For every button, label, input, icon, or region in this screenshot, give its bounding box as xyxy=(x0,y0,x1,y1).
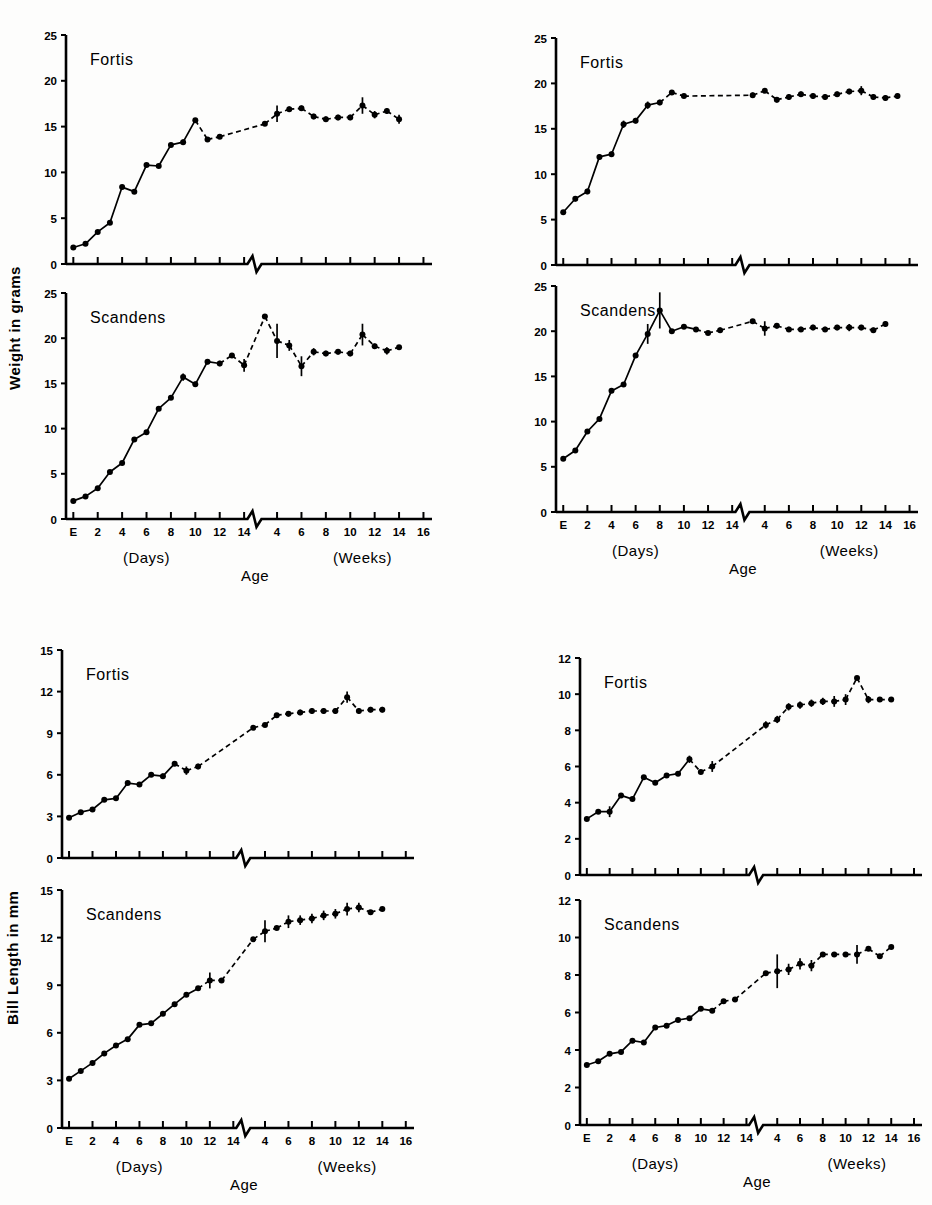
weeks-label: (Weeks) xyxy=(333,549,392,566)
axis-tick-label: 5 xyxy=(541,214,548,226)
data-point xyxy=(344,906,350,912)
axis-tick-label: 6 xyxy=(136,1135,142,1147)
data-point xyxy=(347,114,353,120)
axis-tick-label: 4 xyxy=(762,519,769,531)
data-point xyxy=(657,99,663,105)
data-point xyxy=(90,806,96,812)
data-point xyxy=(798,91,804,97)
axis-tick-label: 6 xyxy=(632,519,638,531)
axis-tick-label: 10 xyxy=(344,526,357,538)
axis-tick-label: 10 xyxy=(534,169,547,181)
days-label: (Days) xyxy=(612,542,659,559)
data-point xyxy=(822,94,828,100)
axis-tick-label: 15 xyxy=(40,885,53,897)
data-point xyxy=(843,951,849,957)
data-point xyxy=(596,154,602,160)
x-axis-line xyxy=(66,511,432,527)
axis-tick-label: 2 xyxy=(95,526,101,538)
data-point xyxy=(66,815,72,821)
data-point xyxy=(750,92,756,98)
axis-tick-label: 3 xyxy=(47,1075,53,1087)
axis-tick-label: 10 xyxy=(329,1135,342,1147)
species-label: Scandens xyxy=(86,906,162,923)
data-point xyxy=(396,344,402,350)
data-point xyxy=(311,349,317,355)
axis-tick-label: 15 xyxy=(44,121,57,133)
data-point xyxy=(652,780,658,786)
data-point xyxy=(323,351,329,357)
data-point xyxy=(321,708,327,714)
axis-tick-label: 12 xyxy=(855,519,868,531)
bill-length-plot: 03691215Fortis03691215E24681012144681012… xyxy=(0,600,466,1205)
axis-tick-label: 2 xyxy=(584,519,590,531)
axis-tick-label: 12 xyxy=(352,1135,365,1147)
data-point xyxy=(125,780,131,786)
data-point xyxy=(717,327,723,333)
data-point xyxy=(95,485,101,491)
axis-tick-label: 8 xyxy=(565,970,572,982)
data-point xyxy=(136,1022,142,1028)
axis-tick-label: 8 xyxy=(657,519,664,531)
data-point xyxy=(750,318,756,324)
data-point xyxy=(675,771,681,777)
data-point xyxy=(113,795,119,801)
data-point xyxy=(274,338,280,344)
axis-tick-label: 12 xyxy=(702,519,715,531)
data-point xyxy=(633,353,639,359)
data-point xyxy=(274,925,280,931)
axis-tick-label: 12 xyxy=(213,526,226,538)
data-point xyxy=(347,351,353,357)
axis-tick-label: 10 xyxy=(694,1132,707,1144)
x-axis-title: Age xyxy=(241,567,269,584)
subplot-billdepth-fortis: 024681012Fortis xyxy=(558,653,922,884)
axis-tick-label: 8 xyxy=(323,526,330,538)
axis-tick-label: 2 xyxy=(606,1132,612,1144)
axis-tick-label: 6 xyxy=(786,519,792,531)
data-point xyxy=(870,327,876,333)
data-point xyxy=(595,809,601,815)
y-axis-label-bill-length: Bill Length in mm xyxy=(4,775,21,1025)
data-point xyxy=(359,103,365,109)
axis-tick-label: 5 xyxy=(541,461,548,473)
axis-tick-label: 9 xyxy=(47,728,53,740)
data-point xyxy=(686,756,692,762)
axis-tick-label: 15 xyxy=(534,123,547,135)
data-point xyxy=(629,1038,635,1044)
data-point xyxy=(274,712,280,718)
axis-tick-label: 6 xyxy=(47,769,53,781)
data-point xyxy=(652,1025,658,1031)
days-label: (Days) xyxy=(123,549,170,566)
data-point xyxy=(136,782,142,788)
data-point xyxy=(379,906,385,912)
subplot-tarsus-fortis: 0510152025Fortis xyxy=(534,33,918,274)
axis-tick-label: E xyxy=(65,1135,73,1147)
series-line-dashed xyxy=(195,106,399,140)
subplot-weight-fortis: 0510152025Fortis xyxy=(44,30,432,273)
axis-tick-label: 12 xyxy=(203,1135,216,1147)
data-point xyxy=(732,996,738,1002)
x-axis-line xyxy=(556,257,918,273)
data-point xyxy=(693,326,699,332)
panel-tarsus: Tarsus Length in mm 0510152025Fortis0510… xyxy=(466,0,932,600)
axis-tick-label: 2 xyxy=(89,1135,95,1147)
data-point xyxy=(854,951,860,957)
species-label: Scandens xyxy=(604,916,680,933)
axis-tick-label: 14 xyxy=(879,519,892,531)
weeks-label: (Weeks) xyxy=(827,1155,886,1172)
data-point xyxy=(882,321,888,327)
data-point xyxy=(262,121,268,127)
data-point xyxy=(831,951,837,957)
data-point xyxy=(285,919,291,925)
axis-tick-label: 8 xyxy=(160,1135,167,1147)
species-label: Fortis xyxy=(604,674,648,691)
data-point xyxy=(820,698,826,704)
data-point xyxy=(192,381,198,387)
data-point xyxy=(797,702,803,708)
data-point xyxy=(396,116,402,122)
data-point xyxy=(641,774,647,780)
data-point xyxy=(698,1006,704,1012)
axis-tick-label: 25 xyxy=(44,288,57,300)
axis-tick-label: 12 xyxy=(368,526,381,538)
data-point xyxy=(262,722,268,728)
data-point xyxy=(786,966,792,972)
